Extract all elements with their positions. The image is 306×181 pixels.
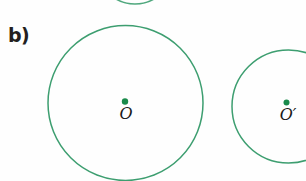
large-circle-center-label: O [119, 106, 132, 122]
figure-canvas [0, 0, 306, 181]
panel-label-b: b) [8, 26, 29, 45]
figure-background [0, 0, 306, 181]
figure-panel-b: b) O O′ [0, 0, 306, 181]
small-circle-center-label: O′ [280, 107, 297, 123]
